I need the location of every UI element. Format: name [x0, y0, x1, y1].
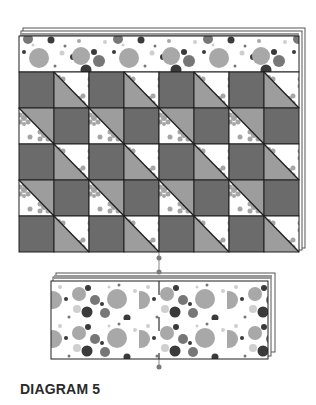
pin-icon [157, 365, 162, 370]
quilt-cell-hst-a [264, 72, 299, 108]
quilt-cell-dark [89, 216, 124, 252]
quilt-cell-hst-a [194, 72, 229, 108]
quilt-cell-hst-a [194, 144, 229, 180]
quilt-cell-dark [19, 216, 54, 252]
diagram-caption: DIAGRAM 5 [20, 381, 100, 397]
quilt-cell-dark [194, 108, 229, 144]
bottom-border-panel [51, 273, 275, 359]
top-border-polka-dot [19, 36, 299, 72]
pin-icon [157, 270, 162, 275]
quilt-cell-dark [194, 180, 229, 216]
quilt-cell-hst-a [194, 216, 229, 252]
quilt-cell-hst-a [54, 144, 89, 180]
quilt-cell-hst-b [89, 180, 124, 216]
quilt-cell-dark [229, 144, 264, 180]
quilt-cell-hst-b [19, 180, 54, 216]
quilt-cell-dark [89, 144, 124, 180]
quilt-cell-hst-a [124, 144, 159, 180]
quilt-cell-hst-b [89, 108, 124, 144]
quilt-cell-hst-a [54, 72, 89, 108]
quilt-cell-hst-a [124, 216, 159, 252]
quilt-cell-dark [264, 108, 299, 144]
quilt-cell-dark [124, 180, 159, 216]
quilt-cell-dark [264, 180, 299, 216]
quilt-cell-hst-a [264, 216, 299, 252]
quilt-cell-dark [159, 216, 194, 252]
quilt-cell-dark [159, 72, 194, 108]
quilt-cell-hst-b [229, 180, 264, 216]
quilt-cell-hst-a [54, 216, 89, 252]
quilt-cell-dark [54, 180, 89, 216]
quilt-cell-dark [54, 108, 89, 144]
quilt-cell-dark [229, 72, 264, 108]
quilt-block-grid [19, 72, 299, 252]
quilt-cell-hst-a [124, 72, 159, 108]
quilt-cell-dark [89, 72, 124, 108]
quilt-cell-dark [19, 144, 54, 180]
quilt-cell-dark [19, 72, 54, 108]
quilt-cell-hst-a [264, 144, 299, 180]
quilt-cell-hst-b [159, 180, 194, 216]
pin-icon [157, 256, 162, 261]
quilt-cell-dark [124, 108, 159, 144]
quilt-cell-hst-b [229, 108, 264, 144]
quilt-cell-hst-b [159, 108, 194, 144]
quilt-cell-dark [229, 216, 264, 252]
quilt-cell-dark [159, 144, 194, 180]
quilt-cell-hst-b [19, 108, 54, 144]
diagram-canvas [0, 0, 316, 405]
